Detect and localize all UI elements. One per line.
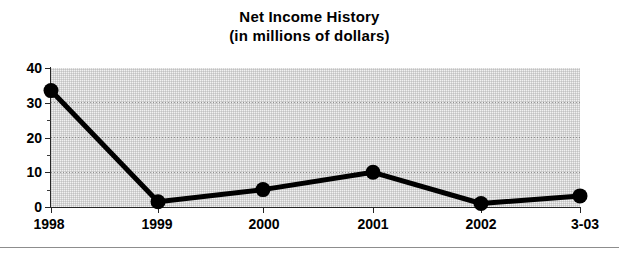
x-axis-label-2000: 2000	[224, 216, 304, 232]
y-axis-label-30: 30	[0, 96, 42, 110]
x-tick-2002	[481, 208, 482, 213]
footer-divider	[0, 247, 619, 248]
x-axis-label-2001: 2001	[333, 216, 413, 232]
x-axis-label-1998: 1998	[9, 216, 89, 232]
y-tick-minor-5	[47, 190, 51, 191]
y-tick-minor-25	[47, 120, 51, 121]
x-axis-label-1999: 1999	[117, 216, 197, 232]
x-tick-3-03	[580, 208, 581, 213]
y-axis-label-40: 40	[0, 61, 42, 75]
gridline-20	[51, 137, 580, 138]
y-tick-20	[45, 138, 51, 139]
gridline-10	[51, 172, 580, 173]
x-axis-line	[50, 207, 581, 208]
x-axis-label-3-03: 3-03	[545, 216, 619, 232]
chart-figure: Net Income History (in millions of dolla…	[0, 0, 619, 257]
chart-title: Net Income History	[0, 8, 619, 26]
y-tick-minor-15	[47, 155, 51, 156]
y-tick-minor-35	[47, 85, 51, 86]
y-axis-label-20: 20	[0, 131, 42, 145]
x-tick-2001	[373, 208, 374, 213]
chart-title-block: Net Income History (in millions of dolla…	[0, 8, 619, 45]
gridline-30	[51, 102, 580, 103]
y-axis-label-0: 0	[0, 200, 42, 214]
plot-area	[51, 68, 580, 207]
x-tick-1998	[51, 208, 52, 213]
y-tick-30	[45, 103, 51, 104]
chart-subtitle: (in millions of dollars)	[0, 26, 619, 45]
x-tick-1999	[158, 208, 159, 213]
y-tick-10	[45, 172, 51, 173]
y-tick-40	[45, 68, 51, 69]
x-tick-2000	[263, 208, 264, 213]
y-axis-label-10: 10	[0, 165, 42, 179]
x-axis-label-2002: 2002	[441, 216, 521, 232]
